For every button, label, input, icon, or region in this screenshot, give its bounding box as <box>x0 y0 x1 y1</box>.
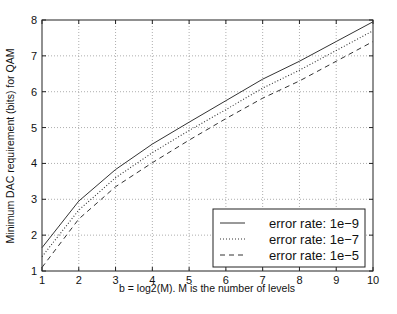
y-tick-label: 8 <box>31 14 37 26</box>
legend-label: error rate: 1e−7 <box>269 232 359 247</box>
x-tick-label: 3 <box>112 274 118 286</box>
legend-label: error rate: 1e−5 <box>269 248 359 263</box>
legend: error rate: 1e−9error rate: 1e−7error ra… <box>213 209 365 267</box>
x-tick-label: 2 <box>76 274 82 286</box>
x-tick-label: 8 <box>296 274 302 286</box>
x-tick-label: 1 <box>39 274 45 286</box>
legend-label: error rate: 1e−9 <box>269 216 359 231</box>
y-tick-label: 3 <box>31 193 37 205</box>
y-axis-label: Minimum DAC requirement (bits) for QAM <box>4 49 16 244</box>
y-tick-label: 5 <box>31 122 37 134</box>
x-tick-label: 9 <box>333 274 339 286</box>
y-tick-label: 4 <box>31 157 37 169</box>
y-tick-label: 6 <box>31 86 37 98</box>
x-axis-label: b = log2(M). M is the number of levels <box>119 282 295 294</box>
x-tick-label: 10 <box>367 274 379 286</box>
y-tick-label: 1 <box>31 265 37 277</box>
y-tick-label: 2 <box>31 229 37 241</box>
line-chart: 1234567891012345678 b = log2(M). M is th… <box>0 0 397 314</box>
y-tick-label: 7 <box>31 50 37 62</box>
